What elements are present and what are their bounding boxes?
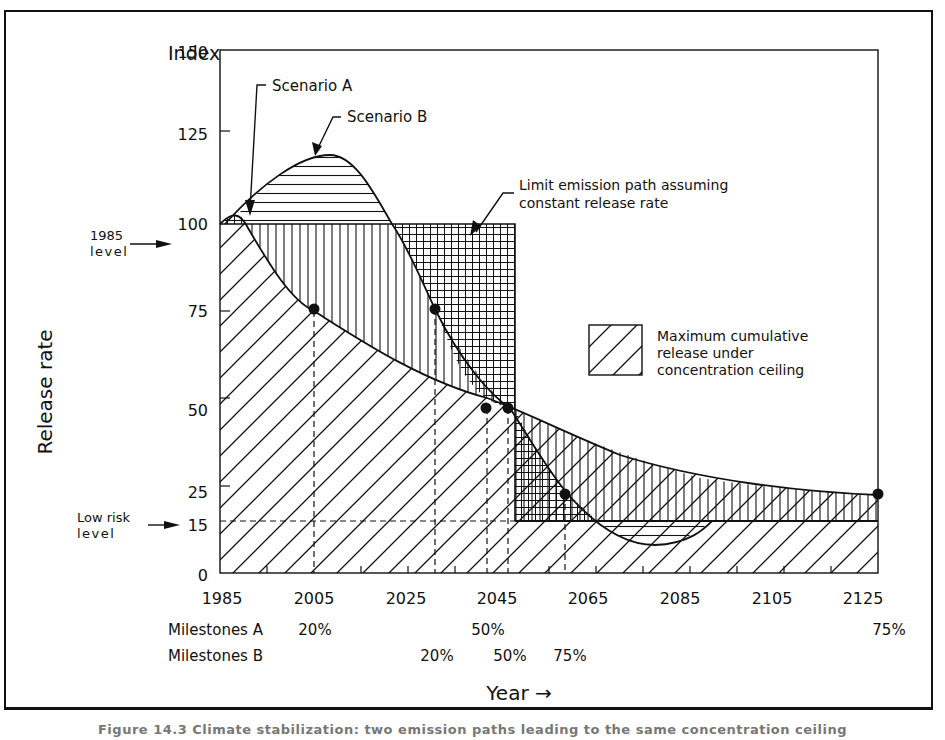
level-1985-label: 1985 (90, 228, 123, 243)
arrow-head-icon (156, 240, 172, 248)
milestone-point (481, 403, 492, 414)
x-tick-2125: 2125 (843, 589, 884, 608)
x-tick-2045: 2045 (477, 589, 518, 608)
limit-label-1: Limit emission path assuming (519, 177, 728, 193)
scenario-a-label: Scenario A (272, 77, 353, 95)
scenario-b-label: Scenario B (347, 108, 427, 126)
x-tick-2005: 2005 (294, 589, 335, 608)
level-1985-label-2: level (90, 244, 128, 259)
y-tick-25: 25 (188, 483, 208, 502)
milestone-b-75: 75% (553, 647, 586, 665)
y-tick-100: 100 (177, 215, 208, 234)
y-axis-title: Release rate (33, 329, 57, 454)
x-tick-2025: 2025 (386, 589, 427, 608)
arrow-head-icon (164, 521, 180, 529)
milestone-a-20: 20% (298, 621, 331, 639)
milestone-a-75: 75% (872, 621, 905, 639)
legend-label-3: concentration ceiling (657, 362, 804, 378)
x-tick-2105: 2105 (752, 589, 793, 608)
x-tick-2085: 2085 (660, 589, 701, 608)
legend-label-2: release under (657, 345, 754, 361)
chart: Index 150 125 100 75 50 25 15 0 Release … (0, 0, 945, 740)
milestone-b-50: 50% (493, 647, 526, 665)
scenario-b-leader (318, 117, 341, 148)
y-tick-125: 125 (177, 125, 208, 144)
milestone-point (873, 489, 884, 500)
milestones-a-label: Milestones A (168, 621, 264, 639)
legend-label-1: Maximum cumulative (657, 328, 808, 344)
y-tick-75: 75 (188, 302, 208, 321)
milestones-b-label: Milestones B (168, 647, 263, 665)
milestone-point (309, 304, 320, 315)
milestone-a-50: 50% (471, 621, 504, 639)
y-tick-50: 50 (188, 401, 208, 420)
low-risk-label-2: level (77, 526, 115, 541)
y-tick-15: 15 (188, 516, 208, 535)
x-axis-title: Year → (485, 681, 551, 705)
milestone-point (430, 304, 441, 315)
low-risk-label: Low risk (77, 510, 130, 525)
area-scenario-b-hump (230, 155, 392, 224)
x-tick-2065: 2065 (568, 589, 609, 608)
milestone-b-20: 20% (420, 647, 453, 665)
milestone-point (503, 403, 514, 414)
legend-swatch-diagonal (589, 325, 642, 375)
y-tick-150: 150 (177, 43, 208, 62)
limit-label-2: constant release rate (519, 195, 668, 211)
y-tick-0: 0 (198, 566, 208, 585)
milestone-point (560, 489, 571, 500)
x-tick-1985: 1985 (202, 589, 243, 608)
figure-caption: Figure 14.3 Climate stabilization: two e… (0, 722, 945, 737)
